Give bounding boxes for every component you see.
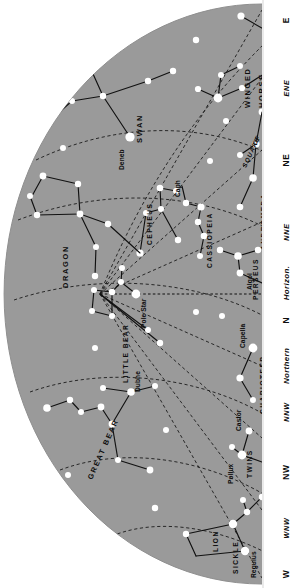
label-star-caph: Caph <box>174 180 182 197</box>
label-little-bear: LITTLE BEAR <box>122 324 129 383</box>
star <box>229 520 237 528</box>
star <box>236 374 243 381</box>
star <box>105 221 111 227</box>
star <box>229 444 235 450</box>
star <box>77 211 84 218</box>
star <box>193 37 199 43</box>
star <box>92 273 98 279</box>
star <box>75 181 81 187</box>
compass-label-e: E <box>281 17 291 23</box>
star <box>152 383 158 389</box>
star <box>249 174 257 182</box>
compass-strip: E ENE NE NNE Horizon. N Northern NNW NW … <box>263 0 304 588</box>
star <box>91 287 97 293</box>
star <box>69 98 75 104</box>
star <box>60 145 66 151</box>
star <box>219 313 225 319</box>
star <box>244 509 250 515</box>
label-star-algol: Algol <box>246 273 254 290</box>
compass-label-nw: NW <box>281 464 291 480</box>
label-star-pole-star: Pole Star <box>140 298 147 328</box>
star <box>27 193 33 199</box>
star-capella <box>249 344 258 353</box>
compass-label-nnw: NNW <box>282 402 291 422</box>
star <box>100 385 106 391</box>
star <box>115 457 121 463</box>
star-regulus <box>241 547 249 555</box>
star <box>98 404 105 411</box>
star <box>237 12 244 19</box>
label-dragon: DRAGON <box>61 245 70 288</box>
star <box>237 204 244 211</box>
star <box>234 252 242 260</box>
label-star-deneb: Deneb <box>118 149 125 170</box>
star <box>67 397 73 403</box>
star <box>218 72 224 78</box>
compass-label-horizon: Horizon. <box>282 266 291 300</box>
label-lion: LION <box>212 530 219 552</box>
star <box>93 244 99 250</box>
star <box>170 68 176 74</box>
star <box>193 309 199 315</box>
star-caph <box>183 200 189 206</box>
star <box>100 93 106 99</box>
star <box>65 472 71 478</box>
label-star-dubhe: Dubhe <box>134 371 141 392</box>
star <box>157 340 163 346</box>
star <box>40 173 47 180</box>
star <box>195 86 201 92</box>
compass-label-nne: NNE <box>282 223 291 241</box>
star-pole-star <box>132 290 141 299</box>
compass-label-ene: ENE <box>282 79 291 96</box>
star <box>157 185 164 192</box>
compass-label-n: N <box>281 317 291 324</box>
star <box>92 345 98 351</box>
star <box>163 427 169 433</box>
compass-label-w: W <box>281 570 291 579</box>
star <box>195 219 201 225</box>
star <box>240 497 246 503</box>
star <box>109 289 115 295</box>
star <box>217 247 223 253</box>
label-star-regulus: Regulus <box>250 551 258 578</box>
compass-label-ne: NE <box>281 153 291 166</box>
star <box>119 265 125 271</box>
star <box>152 505 158 511</box>
star <box>37 126 43 132</box>
star <box>109 313 115 319</box>
star-algol <box>237 270 244 277</box>
star <box>237 152 243 158</box>
star <box>147 467 154 474</box>
northern-horizon-star-chart: WINGED HORSE SQUARE OF PEGASUS ANDROMEDA… <box>0 0 304 588</box>
star <box>197 203 204 210</box>
star-chart-page: WINGED HORSE SQUARE OF PEGASUS ANDROMEDA… <box>0 0 304 588</box>
star <box>89 308 95 314</box>
compass-label-wnw: WNW <box>282 517 291 539</box>
star <box>158 206 164 212</box>
label-star-capella: Capella <box>239 324 247 348</box>
star <box>197 253 203 259</box>
label-twins: TWINS <box>246 449 253 478</box>
compass-label-northern: Northern <box>282 348 291 384</box>
star-deneb <box>125 132 134 141</box>
star <box>86 62 92 68</box>
star <box>78 409 84 415</box>
label-swan: SWAN <box>135 114 144 143</box>
star <box>34 212 40 218</box>
label-sickle: SICKLE <box>232 541 239 574</box>
star <box>250 397 256 403</box>
star <box>207 158 213 164</box>
star <box>175 237 181 243</box>
star <box>145 78 151 84</box>
star <box>43 404 51 412</box>
star-castor <box>246 428 253 435</box>
label-perseus: PERSEUS <box>252 258 259 300</box>
label-star-pollux: Pollux <box>227 463 234 484</box>
star <box>183 531 189 537</box>
label-cepheus: CEPHEUS <box>146 203 153 245</box>
star <box>118 279 124 285</box>
label-cassiopeia: CASSIOPEIA <box>206 212 213 268</box>
star <box>214 94 223 103</box>
star <box>223 118 229 124</box>
label-winged-horse-line1: WINGED <box>243 67 252 108</box>
